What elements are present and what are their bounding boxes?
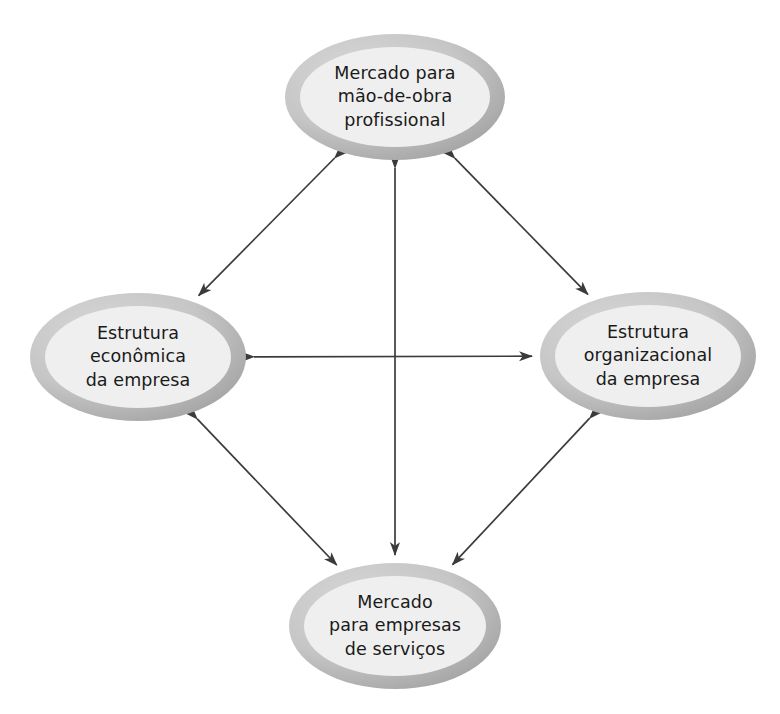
left-bottom-connector xyxy=(197,419,337,565)
node-interior xyxy=(300,47,490,147)
connectors-layer xyxy=(197,158,590,565)
node-mercado-mao-de-obra[interactable] xyxy=(285,34,505,160)
node-mercado-empresas-servicos[interactable] xyxy=(289,563,501,689)
node-interior xyxy=(555,305,741,407)
top-left-connector xyxy=(199,158,335,296)
left-right-connector xyxy=(254,356,532,357)
node-estrutura-economica[interactable] xyxy=(30,293,246,421)
top-right-connector xyxy=(455,158,588,294)
node-interior xyxy=(304,576,486,676)
node-estrutura-organizacional[interactable] xyxy=(540,292,756,420)
diagram-canvas: Mercado paramão-de-obraprofissionalEstru… xyxy=(0,0,780,714)
node-interior xyxy=(45,306,231,408)
diagram-graphics xyxy=(0,0,780,714)
right-bottom-connector xyxy=(453,418,590,565)
nodes-layer xyxy=(30,34,756,689)
